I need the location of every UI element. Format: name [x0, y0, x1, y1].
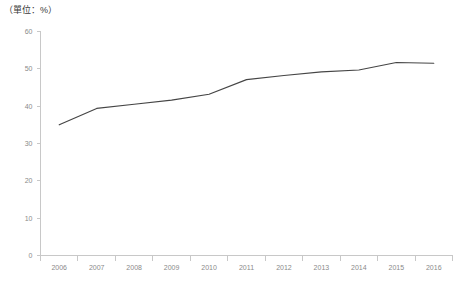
x-tick-label: 2015	[389, 264, 405, 271]
y-tick-label: 30	[25, 140, 33, 147]
x-tick-label: 2011	[239, 264, 254, 271]
x-tick-label: 2013	[314, 264, 330, 271]
x-axis: 2006200720082009201020112012201320142015…	[41, 256, 453, 271]
x-tick-label: 2007	[89, 264, 105, 271]
x-tick-label: 2008	[126, 264, 142, 271]
y-tick-label: 0	[29, 252, 33, 259]
x-tick-label: 2012	[276, 264, 292, 271]
chart-figure: （單位：%） 0102030405060 2006200720082009201…	[0, 0, 458, 289]
y-tick-label: 40	[25, 103, 33, 110]
x-tick-label: 2006	[51, 264, 67, 271]
x-tick-label: 2016	[426, 264, 442, 271]
y-tick-label: 10	[25, 215, 33, 222]
y-axis: 0102030405060	[25, 28, 41, 259]
line-chart-plot: 0102030405060 20062007200820092010201120…	[0, 0, 458, 289]
y-tick-label: 20	[25, 177, 33, 184]
x-tick-label: 2010	[201, 264, 217, 271]
x-tick-label: 2009	[164, 264, 180, 271]
series-line	[59, 62, 434, 124]
x-tick-label: 2014	[351, 264, 367, 271]
y-tick-label: 60	[25, 28, 33, 35]
data-series	[59, 62, 434, 124]
y-tick-label: 50	[25, 65, 33, 72]
